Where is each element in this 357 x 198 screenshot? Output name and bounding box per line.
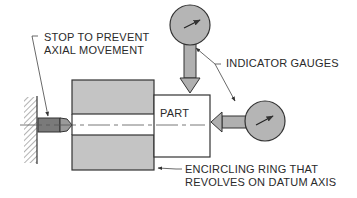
stop-label-line1: STOP TO PREVENT: [44, 31, 150, 43]
ring-label-line2: REVOLVES ON DATUM AXIS: [185, 176, 336, 188]
datum-axis-diagram: PART STOP TO PREVENT AXIAL MOVEMENT INDI…: [0, 0, 357, 198]
part: PART: [154, 95, 210, 157]
ring-label-line1: ENCIRCLING RING THAT: [185, 163, 318, 175]
stop-label-line2: AXIAL MOVEMENT: [44, 44, 144, 56]
right-indicator-gauge: [211, 101, 285, 141]
fixed-wall: [24, 96, 37, 164]
top-indicator-gauge: [170, 5, 210, 93]
part-label: PART: [160, 107, 189, 119]
indicator-gauges-label: INDICATOR GAUGES: [226, 57, 339, 69]
